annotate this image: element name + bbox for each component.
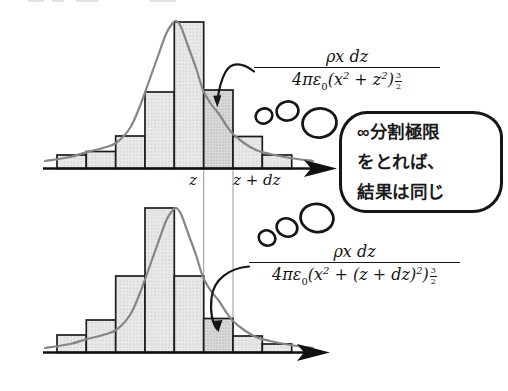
formula-top-numerator: ρx dz: [254, 46, 440, 67]
histogram-bar: [233, 137, 262, 169]
cropped-text-artifact: [76, 0, 98, 2]
histogram-bar: [174, 22, 203, 169]
speech-bubble-line: をとれば、: [357, 147, 500, 177]
thought-oval-icon: [298, 201, 335, 234]
formula-bottom-denominator: 4πε0(x2 + (z + dz)2)32: [249, 262, 460, 288]
thought-trail-top: [253, 99, 338, 139]
cropped-text-artifact: [28, 0, 44, 2]
physics-diagram: ρx dz 4πε0(x2 + z2)32 ρx dz 4πε0(x2 + (z…: [0, 0, 508, 391]
speech-bubble-line: ∞分割極限: [357, 117, 500, 147]
thought-oval-icon: [274, 216, 300, 240]
top-histogram: [43, 21, 337, 177]
histogram-bar: [145, 92, 174, 169]
formula-bottom-numerator: ρx dz: [249, 241, 460, 262]
speech-bubble: ∞分割極限 をとれば、 結果は同じ: [339, 111, 503, 213]
histogram-bar: [86, 152, 115, 169]
axis-label-z: z: [189, 171, 197, 189]
histogram-bar: [174, 276, 203, 353]
formula-top: ρx dz 4πε0(x2 + z2)32: [254, 46, 440, 93]
cropped-text-artifact: [52, 0, 64, 2]
thought-oval-icon: [275, 99, 300, 122]
thought-oval-icon: [253, 106, 274, 126]
exponent-three-halves: 32: [430, 266, 437, 285]
histogram-bar: [145, 208, 174, 353]
speech-bubble-line: 結果は同じ: [357, 177, 500, 207]
thought-oval-icon: [301, 106, 339, 139]
formula-bottom: ρx dz 4πε0(x2 + (z + dz)2)32: [249, 241, 460, 288]
cropped-text-artifact: [150, 0, 176, 2]
exponent-three-halves: 32: [395, 71, 402, 90]
axis-label-z-plus-dz: z + dz: [233, 171, 281, 189]
formula-top-denominator: 4πε0(x2 + z2)32: [254, 67, 440, 93]
